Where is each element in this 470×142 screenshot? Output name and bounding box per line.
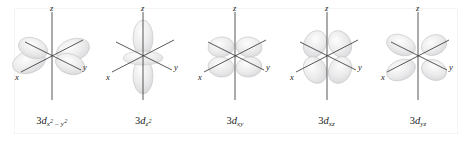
orbital-figure: z y x 3dx2 – y2 <box>0 0 470 142</box>
orbital-diagram-3d-xz: z y x <box>282 0 372 108</box>
y-axis-label: y <box>82 62 87 72</box>
orbital-subscript: z2 <box>146 120 152 128</box>
z-axis-label: z <box>415 3 420 13</box>
sub-sup-2: 2 <box>64 118 67 124</box>
orbital-label-3d-xy: 3dxy <box>190 116 280 128</box>
y-axis-label: y <box>357 62 362 72</box>
orbital-diagram-3d-yz: z y x <box>373 0 463 108</box>
orbital-row: z y x 3dx2 – y2 <box>0 0 470 142</box>
z-axis-label: z <box>324 3 329 13</box>
orbital-diagram-3d-z2: z y x <box>98 0 188 108</box>
y-axis-label: y <box>173 62 178 72</box>
orbital-label-3d-yz: 3dyz <box>373 116 463 128</box>
sub-minus: – <box>53 120 61 128</box>
orbital-label-3d-x2-y2: 3dx2 – y2 <box>7 116 97 128</box>
orbital-cell-3d-x2-y2: z y x 3dx2 – y2 <box>7 0 97 142</box>
sub-sup-1: 2 <box>149 118 152 124</box>
x-axis-label: x <box>197 72 202 82</box>
orbital-subscript: xy <box>237 120 244 128</box>
orbital-cell-3d-xy: z y x 3dxy <box>190 0 280 142</box>
x-axis-label: x <box>380 72 385 82</box>
axis-group <box>204 12 266 100</box>
x-axis-label: x <box>105 72 110 82</box>
z-axis-label: z <box>140 3 145 13</box>
orbital-cell-3d-yz: z y x 3dyz <box>373 0 463 142</box>
y-axis-label: y <box>265 62 270 72</box>
lobe-group <box>298 26 356 87</box>
z-axis-label: z <box>232 3 237 13</box>
axis-group <box>112 12 174 100</box>
orbital-subscript: x2 – y2 <box>47 120 68 128</box>
z-axis-label: z <box>49 3 54 13</box>
orbital-subscript: xz <box>329 120 335 128</box>
lobe-group <box>384 30 450 85</box>
orbital-diagram-3d-xy: z y x <box>190 0 280 108</box>
x-axis-label: x <box>14 72 19 82</box>
orbital-label-3d-z2: 3dz2 <box>98 116 188 128</box>
orbital-cell-3d-xz: z y x 3dxz <box>282 0 372 142</box>
axis-group <box>296 12 358 100</box>
orbital-diagram-3d-x2-y2: z y x <box>7 0 97 108</box>
orbital-cell-3d-z2: z y x 3dz2 <box>98 0 188 142</box>
y-axis-label: y <box>448 62 453 72</box>
orbital-label-3d-xz: 3dxz <box>282 116 372 128</box>
x-axis-label: x <box>289 72 294 82</box>
axis-group <box>387 12 449 100</box>
orbital-subscript: yz <box>420 120 426 128</box>
